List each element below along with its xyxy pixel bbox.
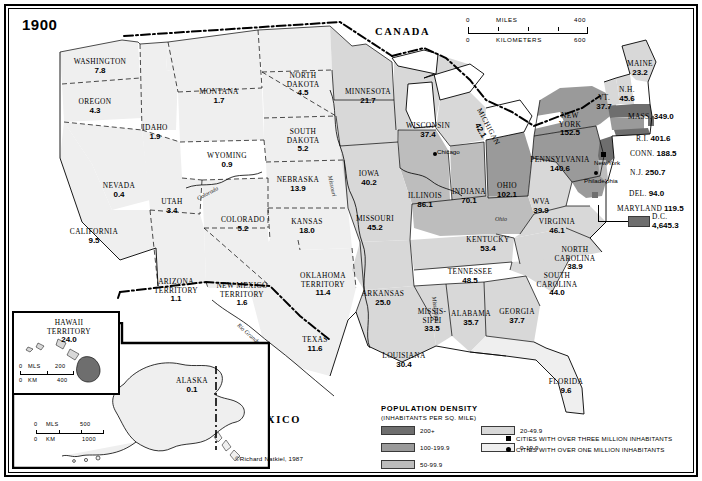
state-label-north-carolina: NORTH CAROLINA 38.9 (548, 246, 602, 272)
river-label-ohio: Ohio (495, 216, 507, 222)
dc-leader-line-vertical (598, 205, 599, 222)
alaska-scale-km-label: KM (46, 436, 55, 442)
state-label-california: CALIFORNIA 9.5 (62, 228, 126, 245)
state-label-pennsylvania: PENNSYLVANIA 140.6 (522, 156, 598, 173)
city-dot-icon (506, 447, 511, 452)
hawaii-inset: HAWAII TERRITORY 24.0 0 MLS 200 0 KM 400 (12, 311, 120, 395)
scale-miles-zero: 0 (466, 16, 470, 23)
legend-label-100-199: 100-199.9 (420, 444, 450, 451)
scale-miles-row: 0 MILES 400 (462, 16, 618, 27)
state-label-alaska: ALASKA 0.1 (164, 377, 220, 394)
legend-swatch-20-49 (481, 426, 515, 435)
state-label-new-mexico-territory: NEW MEXICO TERRITORY 1.6 (206, 282, 278, 308)
alaska-scale-km-zero: 0 (34, 436, 38, 442)
legend: POPULATION DENSITY (INHABITANTS PER SQ. … (381, 404, 681, 466)
scale-miles-max: 400 (574, 16, 586, 23)
state-label-arizona-territory: ARIZONA TERRITORY 1.1 (142, 278, 210, 304)
state-label-west-virginia: WVA 39.9 (524, 198, 558, 215)
legend-band-50-99: 50-99.9 (381, 460, 442, 469)
state-label-south-carolina: SOUTH CAROLINA 44.0 (532, 272, 582, 298)
state-label-new-jersey: N.J.250.7 (630, 169, 665, 178)
state-label-nevada: NEVADA 0.4 (92, 182, 146, 199)
state-label-district-of-columbia: D.C. 4,645.3 (652, 213, 688, 230)
state-label-colorado: COLORADO 5.2 (212, 216, 274, 233)
legend-band-20-49: 20-49.9 (481, 426, 542, 435)
legend-label-200-plus: 200+ (420, 427, 435, 434)
scale-km-row: 0 KILOMETERS 600 (462, 35, 618, 46)
state-label-north-dakota: NORTH DAKOTA 4.5 (276, 72, 330, 98)
hawaii-scale-km-zero: 0 (19, 377, 23, 383)
state-label-nebraska: NEBRASKA 13.9 (268, 176, 328, 193)
hawaii-scale-km-max: 400 (57, 377, 68, 383)
alaska-scale-mls-label: MLS (46, 421, 59, 427)
state-label-utah: UTAH 3.4 (152, 198, 192, 215)
alaska-scale-km-max: 1000 (82, 436, 96, 442)
city-marker-new-york (601, 152, 606, 157)
hawaii-scale-mls-zero: 0 (19, 363, 23, 369)
state-label-new-hampshire: N.H. 45.6 (613, 86, 641, 103)
scale-bar-top: 0 MILES 400 0 KILOMETERS 600 (462, 16, 618, 46)
state-label-louisiana: LOUISIANA 30.4 (376, 352, 432, 369)
state-label-iowa: IOWA 40.2 (350, 170, 388, 187)
hawaii-scale-km-label: KM (28, 377, 37, 383)
state-label-alabama: ALABAMA 35.7 (444, 310, 498, 327)
state-label-new-york: NEW YORK 152.5 (548, 112, 592, 138)
city-marker-philadelphia (594, 171, 598, 175)
state-label-montana: MONTANA 1.7 (188, 88, 250, 105)
state-label-florida: FLORIDA 9.6 (542, 378, 590, 395)
scale-km-label: KILOMETERS (496, 36, 542, 43)
state-label-oregon: OREGON 4.3 (66, 98, 124, 115)
hawaii-scale-mls-label: MLS (28, 363, 41, 369)
alaska-scale-bar-line (36, 430, 104, 434)
state-label-south-dakota: SOUTH DAKOTA 5.2 (276, 128, 330, 154)
state-label-delaware: DEL.94.0 (629, 190, 664, 199)
state-label-idaho: IDAHO 1.9 (132, 124, 178, 141)
state-label-kansas: KANSAS 18.0 (280, 218, 334, 235)
state-label-missouri: MISSOURI 45.2 (348, 215, 402, 232)
legend-title: POPULATION DENSITY (381, 404, 681, 413)
legend-city-keys: CITIES WITH OVER THREE MILLION INHABITAN… (506, 435, 672, 457)
state-label-kentucky: KENTUCKY 53.4 (460, 236, 516, 253)
state-label-illinois: ILLINOIS 86.1 (400, 192, 450, 209)
scale-bar-line (468, 27, 588, 34)
legend-band-200-plus: 200+ (381, 426, 435, 435)
city-square-icon (506, 436, 511, 441)
hawaii-scale-mls-max: 200 (55, 363, 66, 369)
state-label-maine: MAINE 23.2 (620, 60, 660, 77)
state-label-washington: WASHINGTON 7.8 (64, 58, 136, 75)
alaska-scale-mls-max: 500 (80, 421, 91, 427)
year-label: 1900 (22, 16, 57, 33)
state-label-minnesota: MINNESOTA 21.7 (338, 88, 398, 105)
legend-band-100-199: 100-199.9 (381, 443, 450, 452)
state-label-tennessee: TENNESSEE 48.5 (440, 268, 500, 285)
state-label-connecticut: CONN.188.5 (630, 150, 677, 159)
legend-city-key-one-million: CITIES WITH OVER ONE MILLION INHABITANTS (506, 446, 672, 453)
state-label-georgia: GEORGIA 37.7 (492, 308, 542, 325)
dc-leader-line (598, 221, 628, 222)
state-label-texas: TEXAS 11.6 (290, 336, 340, 353)
legend-city-label-three-million: CITIES WITH OVER THREE MILLION INHABITAN… (516, 435, 672, 442)
state-label-massachusetts: MASS.349.0 (628, 113, 674, 122)
state-label-wisconsin: WISCONSIN 37.4 (400, 122, 456, 139)
hawaii-scale-bar-line (20, 371, 74, 375)
credit-line: ©Richard Natkiel, 1987 (235, 455, 303, 462)
state-label-rhode-island: R.I.401.6 (636, 135, 671, 144)
population-density-map: 1900 0 MILES 400 0 KILOMETERS 600 CANADA… (0, 0, 702, 481)
legend-label-50-99: 50-99.9 (420, 461, 442, 468)
country-label-canada: CANADA (375, 26, 430, 37)
legend-swatch-100-199 (381, 443, 415, 452)
legend-label-20-49: 20-49.9 (520, 427, 542, 434)
city-label-chicago: Chicago (437, 148, 460, 155)
city-label-philadelphia: Philadelphia (584, 177, 618, 184)
legend-subtitle: (INHABITANTS PER SQ. MILE) (381, 414, 681, 421)
dc-swatch (628, 216, 650, 227)
legend-swatch-200-plus (381, 426, 415, 435)
state-label-vermont: VT. 37.7 (592, 94, 616, 111)
scale-miles-label: MILES (496, 16, 518, 23)
state-label-hawaii-territory: HAWAII TERRITORY 24.0 (38, 319, 100, 345)
scale-km-zero: 0 (466, 36, 470, 43)
state-label-oklahoma-territory: OKLAHOMA TERRITORY 11.4 (288, 272, 358, 298)
scale-km-max: 600 (574, 36, 586, 43)
state-label-ohio: OHIO 102.1 (486, 182, 528, 199)
state-label-arkansas: ARKANSAS 25.0 (355, 290, 411, 307)
